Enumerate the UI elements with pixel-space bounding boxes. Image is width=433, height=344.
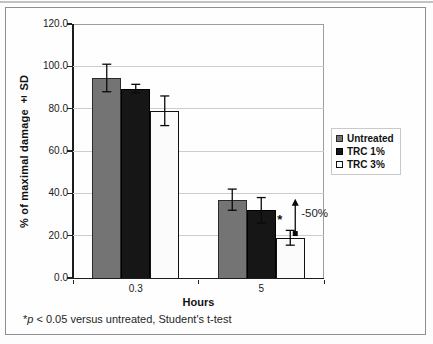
- x-axis-title: Hours: [73, 296, 324, 308]
- footnote-text: < 0.05 versus untreated, Student's t-tes…: [33, 313, 231, 325]
- y-tick-label: 120.0: [26, 18, 68, 30]
- y-axis-line: [72, 24, 74, 279]
- y-tick-label: 80.0: [26, 103, 68, 115]
- legend-label: TRC 3%: [347, 159, 385, 170]
- gridline: [73, 66, 324, 67]
- y-tick-label: 0.0: [26, 272, 68, 284]
- scan-artifact-line: [0, 1, 433, 3]
- x-tick-mark: [73, 280, 74, 284]
- significance-asterisk: *: [277, 212, 283, 227]
- bar-untreated-5: [218, 200, 247, 278]
- y-tick-label: 40.0: [26, 187, 68, 199]
- bar-trc-1--0.3: [121, 89, 150, 278]
- legend-item: TRC 1%: [336, 145, 394, 158]
- legend-swatch-icon: [336, 135, 343, 142]
- figure-scan: % of maximal damage ± SD -50%* Hours Unt…: [0, 0, 433, 344]
- legend-swatch-icon: [336, 148, 343, 155]
- legend: UntreatedTRC 1%TRC 3%: [331, 128, 401, 175]
- legend-swatch-icon: [336, 161, 343, 168]
- legend-item: TRC 3%: [336, 158, 394, 171]
- arrow-head-up-icon: [292, 199, 299, 206]
- legend-label: Untreated: [347, 133, 394, 144]
- x-tick-label: 0.3: [114, 283, 158, 294]
- y-tick-label: 60.0: [26, 145, 68, 157]
- legend-item: Untreated: [336, 132, 394, 145]
- bar-trc-3--0.3: [150, 111, 179, 278]
- footnote: *p < 0.05 versus untreated, Student's t-…: [23, 313, 231, 325]
- plot-area: -50%*: [73, 24, 324, 278]
- y-tick-label: 20.0: [26, 230, 68, 242]
- legend-label: TRC 1%: [347, 146, 385, 157]
- bar-untreated-0.3: [92, 78, 121, 278]
- plot-frame-top: [73, 24, 324, 25]
- bar-trc-3--5: [276, 238, 305, 278]
- x-tick-label: 5: [239, 283, 283, 294]
- x-tick-mark: [198, 280, 199, 284]
- x-tick-mark: [324, 280, 325, 284]
- bar-trc-1--5: [247, 210, 276, 278]
- y-tick-label: 100.0: [26, 60, 68, 72]
